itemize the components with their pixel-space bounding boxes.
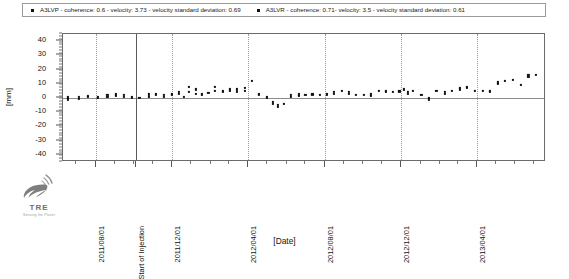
x-tick-minor [114,161,115,164]
data-point-a3lvr [466,87,468,89]
x-tick-minor [439,161,440,164]
data-point-a3lvp [183,95,185,97]
logo-tagline: Sensing the Planet [14,213,64,217]
data-point-a3lvr [229,90,231,92]
y-tick-label: 30 [38,50,46,58]
data-point-a3lvp [250,80,252,82]
start-of-injection-label: Start of Injection [138,226,146,279]
data-point-a3lvp [363,94,365,96]
data-point-a3lvr [201,94,203,96]
data-point-a3lvr [266,97,268,99]
data-point-a3lvr [370,95,372,97]
data-point-a3lvp [341,90,343,92]
x-axis-title: [Date] [0,236,569,246]
data-point-a3lvr [489,91,491,93]
x-tick-minor [152,161,153,164]
x-tick-major [171,161,172,167]
x-tick-major [247,161,248,167]
logo-wordmark: TRE [14,203,64,212]
data-point-a3lvr [222,91,224,93]
data-point-a3lvp [283,103,285,105]
data-point-a3lvr [106,95,108,97]
data-point-a3lvr [155,94,157,96]
x-tick-major [476,161,477,167]
data-point-a3lvr [87,96,89,98]
data-point-a3lvr [326,94,328,96]
data-point-a3lvr [272,103,274,105]
x-tick-minor [362,161,363,164]
data-point-a3lvr [348,93,350,95]
data-point-a3lvr [138,97,140,99]
data-point-a3lvp [188,86,190,88]
data-point-a3lvr [497,83,499,85]
y-tick-label: 20 [38,65,46,73]
data-point-a3lvr [188,91,190,93]
x-axis [62,161,545,171]
data-point-a3lvp [319,94,321,96]
data-point-a3lvp [214,86,216,88]
data-point-a3lvr [333,93,335,95]
data-point-a3lvr [171,94,173,96]
data-point-a3lvp [512,78,514,80]
data-point-a3lvr [385,91,387,93]
x-tick-minor [286,161,287,164]
gridline-vertical [401,34,402,160]
x-tick-major [324,161,325,167]
x-tick-major [95,161,96,167]
x-tick-minor [514,161,515,164]
gridline-vertical [172,34,173,160]
data-point-a3lvr [67,97,69,99]
data-point-a3lvr [78,98,80,100]
zero-baseline [63,98,544,99]
y-tick-label: -40 [35,150,46,158]
tre-logo: TRE Sensing the Planet [14,172,64,224]
data-point-a3lvp [378,90,380,92]
x-tick-minor [457,161,458,164]
x-tick-minor [228,161,229,164]
data-point-a3lvr [290,95,292,97]
x-tick-minor [420,161,421,164]
data-point-a3lvp [412,90,414,92]
y-tick-label: -30 [35,136,46,144]
y-tick-label: -10 [35,107,46,115]
data-point-a3lvr [236,91,238,93]
data-point-a3lvr [277,105,279,107]
data-point-a3lvr [297,95,299,97]
x-tick-injection [135,161,136,167]
data-point-a3lvr [148,95,150,97]
y-tick-label: -20 [35,121,46,129]
chart-legend: A3LVP - coherence: 0.6 - velocity: 3.73 … [22,3,546,17]
data-point-a3lvp [207,92,209,94]
data-point-a3lvr [527,76,529,78]
data-point-a3lvr [123,95,125,97]
legend-label-a3lvp: A3LVP - coherence: 0.6 - velocity: 3.73 … [40,6,241,14]
data-point-a3lvr [244,90,246,92]
legend-label-a3lvr: A3LVR - coherence: 0.71- velocity: 3.5 -… [266,6,465,14]
plot-area [62,33,545,161]
data-point-a3lvp [420,94,422,96]
data-point-a3lvr [398,91,400,93]
data-point-a3lvr [115,95,117,97]
square-marker-icon [257,9,260,12]
data-point-a3lvp [473,90,475,92]
x-tick-minor [304,161,305,164]
data-point-a3lvr [458,88,460,90]
y-axis-title: [mm] [4,88,13,106]
data-point-a3lvr [407,93,409,95]
data-point-a3lvr [178,93,180,95]
legend-entry-a3lvp: A3LVP - coherence: 0.6 - velocity: 3.73 … [31,6,241,14]
y-tick-label: 40 [38,36,46,44]
data-point-a3lvp [482,90,484,92]
data-point-a3lvr [311,94,313,96]
x-tick-minor [381,161,382,164]
x-tick-minor [133,161,134,164]
y-tick-label: 10 [38,79,46,87]
x-tick-minor [75,161,76,164]
legend-entry-a3lvr: A3LVR - coherence: 0.71- velocity: 3.5 -… [257,6,465,14]
x-tick-minor [266,161,267,164]
gridline-vertical [325,34,326,160]
data-point-a3lvp [392,91,394,93]
data-point-a3lvp [504,80,506,82]
x-tick-minor [495,161,496,164]
